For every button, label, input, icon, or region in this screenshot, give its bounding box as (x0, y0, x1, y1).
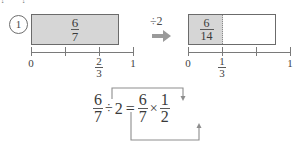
divide-by-two-label: ÷2 (150, 14, 163, 29)
right-bar-model: 6 14 (188, 14, 276, 45)
divide-to-multiply-arrow-head (181, 96, 186, 101)
right-bar-fraction-denominator: 14 (200, 29, 214, 42)
item-number-badge: 1 (9, 15, 28, 34)
right-tick-0 (188, 47, 189, 56)
left-axis-label-3-text: 1 (130, 57, 136, 69)
equation-rhs-fraction: 6 7 (138, 92, 148, 125)
left-bar-fraction: 6 7 (71, 16, 80, 43)
equation-rhs-denominator: 7 (138, 108, 148, 125)
left-axis-fraction-numerator: 2 (95, 56, 103, 67)
right-axis-fraction-denominator: 3 (218, 67, 226, 79)
left-tick-0 (31, 47, 32, 56)
divisor-value: 2 (115, 100, 123, 118)
equation-lhs-denominator: 7 (93, 108, 103, 125)
left-number-line (31, 52, 133, 53)
clipped-header-text: ? ? (0, 0, 306, 3)
left-bar-model: 6 7 (31, 14, 119, 45)
divisor-to-denominator-arrow-head (197, 123, 202, 128)
multiply-symbol: × (150, 101, 158, 117)
equation-lhs-fraction: 6 7 (93, 92, 103, 125)
equation-rhs-numerator: 6 (138, 92, 148, 108)
right-bar-fraction-numerator: 6 (203, 17, 211, 29)
thick-right-arrow-icon (152, 29, 172, 43)
right-axis-label-3-text: 1 (287, 57, 293, 69)
equation-reciprocal-fraction: 1 2 (160, 92, 170, 125)
left-tick-1 (65, 47, 66, 56)
left-bar-fraction-numerator: 6 (71, 16, 80, 29)
left-bar-label: 6 7 (32, 15, 118, 44)
left-tick-3 (133, 47, 134, 56)
right-axis-label-1: 1 3 (215, 56, 229, 79)
left-axis-label-3: 1 (127, 57, 139, 69)
equation-reciprocal-numerator: 1 (160, 92, 170, 108)
right-bar-label: 6 14 (189, 15, 224, 44)
right-bar-fraction: 6 14 (200, 17, 214, 42)
right-axis-fraction-one-third: 1 3 (218, 56, 226, 79)
right-tick-3 (290, 47, 291, 56)
equals-symbol: = (126, 100, 135, 118)
left-bar-fraction-denominator: 7 (71, 29, 80, 43)
left-axis-label-2: 2 3 (92, 56, 106, 79)
right-number-line (188, 52, 290, 53)
left-axis-fraction-denominator: 3 (95, 67, 103, 79)
left-axis-label-0: 0 (25, 57, 37, 69)
right-axis-fraction-numerator: 1 (218, 56, 226, 67)
right-axis-label-3: 1 (284, 57, 296, 69)
right-tick-2 (256, 47, 257, 56)
figure-canvas: ? ? 1 6 7 0 2 3 1 ÷2 (0, 0, 306, 151)
equation-lhs-numerator: 6 (93, 92, 103, 108)
equation-reciprocal-denominator: 2 (160, 108, 170, 125)
left-axis-label-0-text: 0 (28, 57, 34, 69)
right-axis-label-0-text: 0 (185, 57, 191, 69)
left-axis-fraction-two-thirds: 2 3 (95, 56, 103, 79)
equation: 6 7 ÷ 2 = 6 7 × 1 2 (93, 92, 170, 125)
divide-symbol: ÷ (105, 101, 113, 117)
right-axis-label-0: 0 (182, 57, 194, 69)
